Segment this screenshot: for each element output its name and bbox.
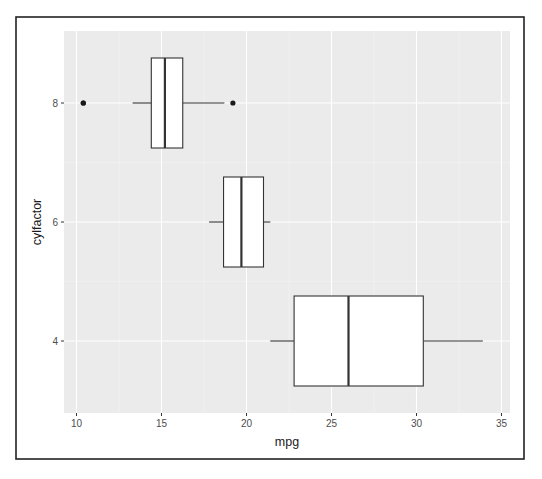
x-tick-label: 25: [326, 418, 338, 429]
boxplot-chart: 101520253035 468 mpg cylfactor: [0, 0, 542, 479]
x-tick-label: 10: [71, 418, 83, 429]
y-tick-label: 8: [52, 98, 58, 109]
y-tick-label: 6: [52, 217, 58, 228]
outlier-point: [230, 100, 235, 105]
x-tick-label: 20: [241, 418, 253, 429]
x-axis-title: mpg: [275, 435, 299, 449]
outlier-point: [81, 100, 86, 105]
x-tick-label: 35: [496, 418, 508, 429]
box-iqr: [224, 177, 264, 267]
x-tick-label: 15: [156, 418, 168, 429]
box-iqr: [151, 58, 182, 148]
box-iqr: [294, 296, 423, 386]
y-axis-title: cylfactor: [30, 199, 44, 246]
boxplot-figure: 101520253035 468 mpg cylfactor: [0, 0, 542, 479]
x-tick-label: 30: [411, 418, 423, 429]
y-tick-label: 4: [52, 336, 58, 347]
